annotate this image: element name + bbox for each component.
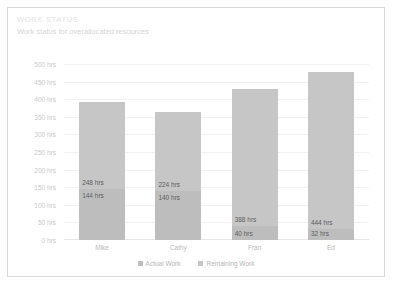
bar-segment-remaining-work[interactable]: 388 hrs — [232, 89, 278, 226]
chart-subtitle: Work status for overallocated resources — [17, 27, 149, 36]
gridline — [64, 64, 369, 65]
bar-value-label: 144 hrs — [82, 192, 104, 199]
y-axis-tick-label: 350 hrs — [34, 113, 56, 120]
legend-swatch-icon — [198, 261, 203, 266]
legend-item[interactable]: Actual Work — [138, 260, 181, 267]
x-axis-tick-label: Ed — [327, 244, 335, 251]
bar-value-label: 140 hrs — [158, 194, 180, 201]
plot-area: 248 hrs144 hrs224 hrs140 hrs388 hrs40 hr… — [64, 64, 369, 240]
x-axis-tick-label: Cathy — [170, 244, 187, 251]
page-title: WORK STATUS — [17, 15, 79, 24]
bar-segment-remaining-work[interactable]: 224 hrs — [155, 112, 201, 191]
legend-swatch-icon — [138, 261, 143, 266]
y-axis-tick-label: 500 hrs — [34, 61, 56, 68]
y-axis-tick-label: 200 hrs — [34, 166, 56, 173]
bar-segment-actual-work[interactable]: 140 hrs — [155, 191, 201, 240]
bar-segment-remaining-work[interactable]: 248 hrs — [79, 102, 125, 189]
bar-value-label: 388 hrs — [235, 216, 257, 223]
y-axis-tick-label: 0 hrs — [42, 237, 56, 244]
y-axis-tick-label: 250 hrs — [34, 149, 56, 156]
bar-segment-remaining-work[interactable]: 444 hrs — [308, 72, 354, 228]
y-axis: 500 hrs450 hrs400 hrs350 hrs300 hrs250 h… — [8, 64, 60, 240]
x-axis: MikeCathyFranEd — [64, 244, 369, 256]
bar-segment-actual-work[interactable]: 40 hrs — [232, 226, 278, 240]
chart-legend: Actual WorkRemaining Work — [8, 260, 384, 267]
y-axis-tick-label: 400 hrs — [34, 96, 56, 103]
y-axis-tick-label: 150 hrs — [34, 184, 56, 191]
bar-value-label: 248 hrs — [82, 179, 104, 186]
y-axis-tick-label: 450 hrs — [34, 78, 56, 85]
bar-value-label: 32 hrs — [311, 230, 329, 237]
bar-segment-actual-work[interactable]: 32 hrs — [308, 229, 354, 240]
bar-stack[interactable]: 444 hrs32 hrs — [308, 72, 354, 240]
bar-value-label: 444 hrs — [311, 219, 333, 226]
bar-stack[interactable]: 248 hrs144 hrs — [79, 102, 125, 240]
legend-item-label: Actual Work — [146, 260, 181, 267]
legend-item[interactable]: Remaining Work — [198, 260, 254, 267]
x-axis-tick-label: Mike — [95, 244, 109, 251]
bar-segment-actual-work[interactable]: 144 hrs — [79, 189, 125, 240]
y-axis-tick-label: 100 hrs — [34, 201, 56, 208]
bar-value-label: 224 hrs — [158, 181, 180, 188]
bar-stack[interactable]: 224 hrs140 hrs — [155, 112, 201, 240]
work-status-chart-card: WORK STATUS Work status for overallocate… — [7, 7, 385, 277]
bar-value-label: 40 hrs — [235, 230, 253, 237]
legend-item-label: Remaining Work — [206, 260, 254, 267]
y-axis-tick-label: 50 hrs — [38, 219, 56, 226]
y-axis-tick-label: 300 hrs — [34, 131, 56, 138]
bar-stack[interactable]: 388 hrs40 hrs — [232, 89, 278, 240]
x-axis-tick-label: Fran — [248, 244, 261, 251]
